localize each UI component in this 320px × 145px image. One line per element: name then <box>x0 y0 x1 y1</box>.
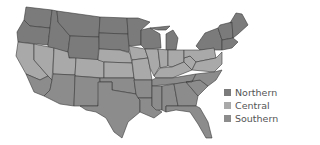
map-legend: Northern Central Southern <box>224 86 278 125</box>
southern-swatch-icon <box>224 115 231 122</box>
state-ny <box>196 28 222 50</box>
state-wi <box>141 28 161 49</box>
legend-label: Central <box>235 99 270 112</box>
legend-item-central: Central <box>224 99 278 112</box>
northern-swatch-icon <box>224 89 231 96</box>
state-co <box>75 58 104 78</box>
state-ms <box>152 86 162 110</box>
state-fl <box>166 106 212 138</box>
state-nm <box>74 76 100 106</box>
state-wy <box>68 36 99 60</box>
state-ks <box>104 62 134 78</box>
legend-label: Southern <box>235 112 278 125</box>
legend-item-northern: Northern <box>224 86 278 99</box>
state-ar <box>134 80 152 98</box>
state-ma-ct-ri <box>222 38 238 50</box>
central-swatch-icon <box>224 102 231 109</box>
state-nd <box>99 17 128 34</box>
state-me <box>230 13 248 38</box>
legend-item-southern: Southern <box>224 112 278 125</box>
legend-label: Northern <box>235 86 277 99</box>
southern-region <box>26 70 222 138</box>
